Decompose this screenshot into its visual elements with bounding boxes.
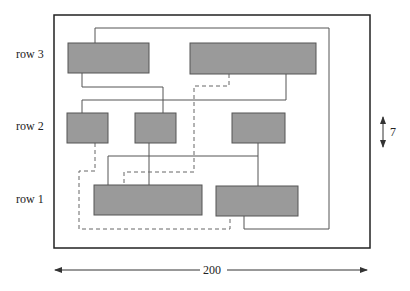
wire-net-3 xyxy=(82,74,286,113)
block-row3-a xyxy=(68,43,149,73)
block-row1-b xyxy=(216,186,298,216)
block-row2-a xyxy=(67,113,108,143)
blocks xyxy=(67,43,316,216)
row-label-1: row 1 xyxy=(16,192,44,207)
block-row2-b xyxy=(135,113,176,143)
row-label-2: row 2 xyxy=(16,119,44,134)
wire-net-2 xyxy=(82,73,163,113)
wire-net-5b xyxy=(108,156,258,185)
block-row1-a xyxy=(94,185,202,215)
row-height-dimension-label: 7 xyxy=(390,125,396,140)
row-label-3: row 3 xyxy=(16,47,44,62)
placement-diagram xyxy=(0,0,410,291)
block-row2-c xyxy=(232,113,285,143)
block-row3-b xyxy=(190,43,316,74)
width-dimension-label: 200 xyxy=(203,263,221,278)
